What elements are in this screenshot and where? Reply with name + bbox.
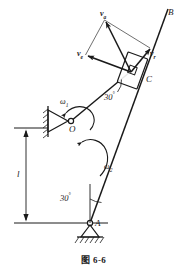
label-point-O: O xyxy=(69,125,76,134)
label-vector-vr: vr xyxy=(150,50,156,60)
label-omega1: ω1 xyxy=(60,98,68,108)
label-omega2: ω2 xyxy=(104,163,112,173)
mechanism-figure: B C O A l va ve vr ω1 ω2 30° 30° 图 6-6 xyxy=(0,0,187,277)
label-angle-lower-value: 30 xyxy=(60,193,69,203)
label-vector-ve: ve xyxy=(77,50,83,60)
label-vector-va-subscript: a xyxy=(104,14,107,20)
label-vector-va: va xyxy=(100,10,106,20)
label-omega1-subscript: 1 xyxy=(66,102,69,108)
label-angle-lower: 30° xyxy=(60,193,71,202)
label-angle-upper-value: 30 xyxy=(104,92,113,102)
label-point-C: C xyxy=(146,75,152,84)
label-omega2-subscript: 2 xyxy=(110,167,113,173)
label-angle-upper: 30° xyxy=(104,92,115,101)
dimension-line-l xyxy=(23,130,28,222)
label-vector-ve-subscript: e xyxy=(81,54,83,60)
velocity-parallelogram xyxy=(86,20,151,55)
label-point-A: A xyxy=(95,219,101,228)
figure-caption: 图 6-6 xyxy=(0,253,187,266)
support-A xyxy=(14,220,108,243)
label-point-B: B xyxy=(168,8,174,17)
label-angle-lower-unit: ° xyxy=(69,192,71,198)
label-angle-upper-unit: ° xyxy=(113,91,115,97)
bar-AB xyxy=(90,9,168,223)
label-length-l: l xyxy=(17,170,20,179)
mechanism-diagram-svg xyxy=(0,0,187,277)
label-vector-vr-subscript: r xyxy=(154,54,156,60)
